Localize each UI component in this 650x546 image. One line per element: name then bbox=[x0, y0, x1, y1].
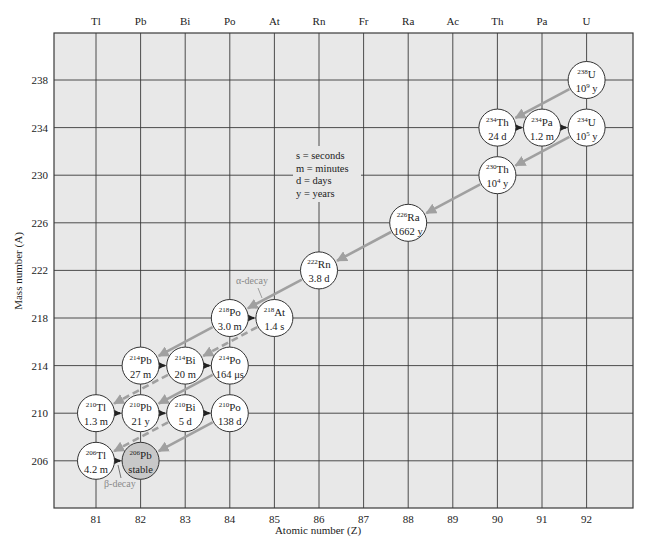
element-symbol-label: Tl bbox=[91, 15, 101, 27]
element-symbol-label: At bbox=[269, 15, 280, 27]
element-symbol-labels: TlPbBiPoAtRnFrRaAcThPaU bbox=[91, 15, 591, 27]
decay-chart-svg: TlPbBiPoAtRnFrRaAcThPaU 8182838485868788… bbox=[0, 0, 650, 546]
nuclide-half-life: 1.4 s bbox=[264, 321, 284, 332]
nuclide-half-life: stable bbox=[128, 464, 153, 475]
legend-line: y = years bbox=[296, 188, 335, 199]
x-tick-label: 81 bbox=[91, 513, 102, 525]
nuclide-half-life: 3.0 m bbox=[218, 321, 242, 332]
element-symbol-label: Ac bbox=[446, 15, 459, 27]
x-tick-label: 88 bbox=[403, 513, 415, 525]
nuclide-half-life: 164 μs bbox=[216, 369, 244, 380]
element-symbol-label: Rn bbox=[313, 15, 326, 27]
y-tick-label: 218 bbox=[32, 312, 49, 324]
nuclide-at218: 218At1.4 s bbox=[256, 300, 293, 337]
element-symbol-label: Bi bbox=[180, 15, 190, 27]
y-tick-label: 234 bbox=[32, 122, 49, 134]
alpha-decay-label: α-decay bbox=[236, 275, 268, 286]
nuclide-half-life: 24 d bbox=[488, 131, 507, 142]
element-symbol-label: Ra bbox=[402, 15, 414, 27]
nuclide-half-life: 1662 y bbox=[394, 226, 424, 237]
y-axis-label: Mass number (A) bbox=[12, 232, 25, 310]
y-tick-label: 210 bbox=[32, 407, 49, 419]
nuclide-half-life: 1.2 m bbox=[530, 131, 554, 142]
y-axis-tick-labels: 206210214218222226230234238 bbox=[32, 74, 49, 467]
nuclide-po210: 210Po138 d bbox=[211, 395, 248, 432]
nuclide-half-life: 5 d bbox=[179, 416, 193, 427]
nuclide-pb210: 210Pb21 y bbox=[122, 395, 159, 432]
nuclide-po214: 214Po164 μs bbox=[211, 347, 248, 384]
x-tick-label: 84 bbox=[224, 513, 236, 525]
nuclide-bi210: 210Bi5 d bbox=[167, 395, 204, 432]
element-symbol-label: Th bbox=[491, 15, 504, 27]
nuclide-pa234: 234Pa1.2 m bbox=[524, 109, 561, 146]
x-tick-label: 89 bbox=[447, 513, 459, 525]
nuclide-half-life: 27 m bbox=[130, 369, 151, 380]
y-tick-label: 226 bbox=[32, 217, 49, 229]
nuclide-pb214: 214Pb27 m bbox=[122, 347, 159, 384]
nuclide-ra226: 226Ra1662 y bbox=[390, 204, 427, 241]
nuclide-rn222: 222Rn3.8 d bbox=[301, 252, 338, 289]
nuclide-half-life: 4.2 m bbox=[84, 464, 108, 475]
nuclide-pb206: 206Pbstable bbox=[122, 442, 159, 479]
x-tick-label: 91 bbox=[537, 513, 548, 525]
unit-legend: s = secondsm = minutesd = daysy = years bbox=[293, 146, 361, 202]
legend-line: m = minutes bbox=[296, 163, 349, 174]
y-tick-label: 230 bbox=[32, 169, 49, 181]
nuclide-u234: 234U105 y bbox=[568, 109, 605, 146]
x-axis-label: Atomic number (Z) bbox=[275, 524, 361, 537]
y-tick-label: 206 bbox=[32, 455, 49, 467]
element-symbol-label: Pa bbox=[537, 15, 548, 27]
nuclide-half-life: 3.8 d bbox=[309, 273, 331, 284]
x-tick-label: 82 bbox=[135, 513, 146, 525]
nuclide-half-life: 1.3 m bbox=[84, 416, 108, 427]
nuclide-half-life: 20 m bbox=[175, 369, 196, 380]
nuclide-u238: 238U109 y bbox=[568, 62, 605, 99]
element-symbol-label: U bbox=[583, 15, 591, 27]
nuclide-th234: 234Th24 d bbox=[479, 109, 516, 146]
legend-line: d = days bbox=[296, 175, 332, 186]
nuclide-po218: 218Po3.0 m bbox=[211, 300, 248, 337]
nuclide-bi214: 214Bi20 m bbox=[167, 347, 204, 384]
nuclide-tl210: 210Tl1.3 m bbox=[78, 395, 115, 432]
x-tick-label: 92 bbox=[581, 513, 592, 525]
legend-line: s = seconds bbox=[296, 150, 345, 161]
y-tick-label: 214 bbox=[32, 360, 49, 372]
nuclide-tl206: 206Tl4.2 m bbox=[78, 442, 115, 479]
element-symbol-label: Po bbox=[224, 15, 236, 27]
element-symbol-label: Pb bbox=[135, 15, 147, 27]
nuclide-half-life: 138 d bbox=[218, 416, 242, 427]
element-symbol-label: Fr bbox=[359, 15, 369, 27]
nuclide-th230: 230Th104 y bbox=[479, 157, 516, 194]
y-tick-label: 222 bbox=[32, 264, 49, 276]
nuclide-half-life: 21 y bbox=[131, 416, 150, 427]
beta-decay-label: β-decay bbox=[104, 478, 136, 489]
decay-series-diagram: TlPbBiPoAtRnFrRaAcThPaU 8182838485868788… bbox=[0, 0, 650, 546]
x-tick-label: 90 bbox=[492, 513, 504, 525]
x-tick-label: 83 bbox=[180, 513, 192, 525]
y-tick-label: 238 bbox=[32, 74, 49, 86]
